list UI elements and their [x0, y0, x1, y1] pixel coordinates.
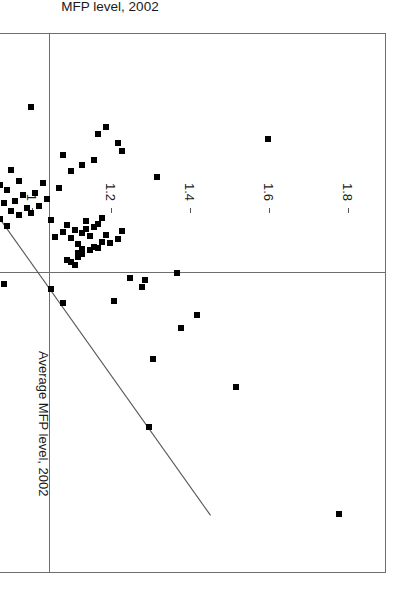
data-point: [24, 205, 30, 211]
average-mfp-annotation-label: Average MFP level, 2002: [36, 351, 51, 497]
y-tick-mark: [190, 208, 191, 213]
data-point: [16, 178, 22, 184]
data-point: [5, 223, 11, 229]
data-point: [103, 124, 109, 130]
data-point: [154, 174, 160, 180]
data-point: [60, 300, 66, 306]
data-point: [99, 215, 105, 221]
data-point: [44, 196, 50, 202]
data-point: [233, 384, 239, 390]
data-point: [5, 187, 11, 193]
data-point: [115, 236, 121, 242]
data-point: [194, 312, 200, 318]
data-point: [91, 244, 97, 250]
data-point: [20, 192, 26, 198]
data-point: [91, 157, 97, 163]
data-point: [8, 167, 14, 173]
data-point: [16, 212, 22, 218]
y-tick-mark: [348, 208, 349, 213]
chart-figure-wrapper: -150-100-50050100150200250300 0.60.811.2…: [0, 0, 407, 607]
data-point: [99, 239, 105, 245]
average-mfp-reference-line: [0, 272, 386, 273]
data-point: [52, 234, 58, 240]
data-point: [150, 356, 156, 362]
data-point: [174, 270, 180, 276]
data-point: [87, 233, 93, 239]
y-tick-mark: [269, 208, 270, 213]
data-point: [107, 240, 113, 246]
plot-frame: [0, 33, 386, 573]
y-tick-label: 1.2: [103, 183, 118, 201]
y-axis-title: MFP level, 2002: [61, 0, 158, 14]
data-point: [143, 277, 149, 283]
data-point: [48, 286, 54, 292]
data-point: [48, 217, 54, 223]
data-point: [60, 152, 66, 158]
data-point: [0, 182, 3, 188]
data-point: [28, 104, 34, 110]
data-point: [40, 180, 46, 186]
y-tick-label: 1.6: [261, 183, 276, 201]
data-point: [72, 227, 78, 233]
data-point: [1, 281, 7, 287]
y-tick-mark: [111, 208, 112, 213]
data-point: [111, 298, 117, 304]
data-point: [139, 284, 145, 290]
data-point: [68, 235, 74, 241]
scatter-chart: -150-100-50050100150200250300 0.60.811.2…: [0, 0, 407, 607]
y-tick-label: 1.4: [182, 183, 197, 201]
data-point: [95, 131, 101, 137]
data-point: [68, 168, 74, 174]
data-point: [146, 424, 152, 430]
data-point: [83, 218, 89, 224]
data-point: [56, 185, 62, 191]
data-point: [119, 228, 125, 234]
data-point: [1, 200, 7, 206]
data-point: [12, 198, 18, 204]
data-point: [115, 140, 121, 146]
data-point: [64, 257, 70, 263]
data-point: [64, 222, 70, 228]
data-point: [60, 229, 66, 235]
data-point: [178, 325, 184, 331]
data-point: [83, 226, 89, 232]
data-point: [119, 148, 125, 154]
data-point: [336, 511, 342, 517]
data-point: [32, 190, 38, 196]
data-point: [75, 241, 81, 247]
data-point: [103, 232, 109, 238]
data-point: [79, 162, 85, 168]
data-point: [265, 136, 271, 142]
data-point: [0, 216, 3, 222]
data-point: [127, 275, 133, 281]
data-point: [36, 203, 42, 209]
data-point: [8, 208, 14, 214]
y-tick-label: 1.8: [340, 183, 355, 201]
data-point: [95, 221, 101, 227]
